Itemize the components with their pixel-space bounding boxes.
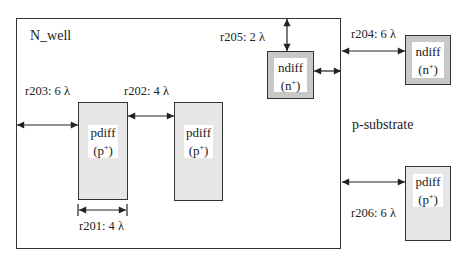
rule-r203-label: r203: 6 λ (25, 84, 70, 99)
rule-r205-label: r205: 2 λ (220, 30, 265, 45)
rule-r204-label: r204: 6 λ (351, 27, 396, 42)
rule-r206-label: r206: 6 λ (351, 206, 396, 221)
rule-r202-label: r202: 4 λ (124, 84, 169, 99)
rule-r201-label: r201: 4 λ (79, 219, 124, 234)
